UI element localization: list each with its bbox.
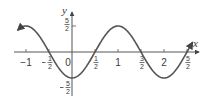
svg-text:2: 2 <box>186 63 190 70</box>
x-tick-label: 0 <box>65 57 71 68</box>
x-axis-label: x <box>192 37 198 49</box>
svg-text:2: 2 <box>65 25 69 32</box>
x-tick-label: 2 <box>161 57 167 68</box>
x-tick-fraction-label: 12 <box>94 55 99 70</box>
x-tick-label: 1 <box>115 57 121 68</box>
x-tick-label: −1 <box>20 57 32 68</box>
function-graph: −1120121322525252 x y <box>0 0 204 97</box>
svg-text:1: 1 <box>94 55 98 62</box>
svg-text:2: 2 <box>66 88 70 95</box>
x-tick-fraction-label: 52 <box>186 55 191 70</box>
y-tick-fraction-label: 52 <box>65 17 70 32</box>
tick-marks <box>26 26 187 52</box>
tick-labels: −1120121322525252 <box>20 17 190 95</box>
svg-text:2: 2 <box>94 63 98 70</box>
svg-text:2: 2 <box>48 63 52 70</box>
y-tick-fraction-label: 52 <box>60 80 71 95</box>
svg-text:2: 2 <box>140 63 144 70</box>
svg-text:5: 5 <box>186 55 190 62</box>
x-tick-fraction-label: 12 <box>42 55 53 70</box>
svg-text:5: 5 <box>65 17 69 24</box>
y-axis-label: y <box>61 4 67 16</box>
svg-text:5: 5 <box>66 80 70 87</box>
